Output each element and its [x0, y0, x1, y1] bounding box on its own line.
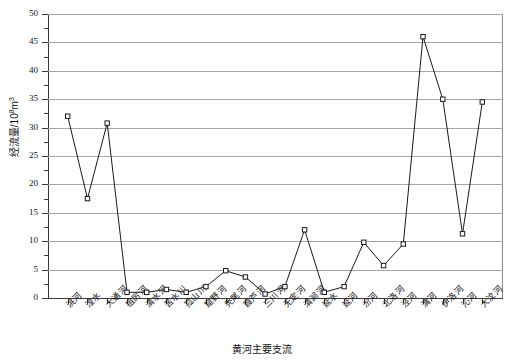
y-tick — [42, 156, 48, 157]
y-tick — [42, 42, 48, 43]
y-tick — [42, 270, 48, 271]
y-tick — [42, 241, 48, 242]
y-tick-minor — [44, 57, 48, 58]
y-tick-label: 50 — [0, 9, 38, 18]
y-tick — [42, 71, 48, 72]
gridline — [48, 156, 503, 157]
y-tick-label: 5 — [0, 265, 38, 274]
gridline — [48, 184, 503, 185]
runoff-line-chart: 05101520253035404550 洮河湟水大通河祖厉河清水河苦水川孤山川… — [0, 0, 523, 363]
x-axis-title: 黄河主要支流 — [0, 344, 523, 355]
y-axis-title: 经流量/108m3 — [6, 62, 20, 192]
y-tick-minor — [44, 142, 48, 143]
y-tick-minor — [44, 284, 48, 285]
y-tick — [42, 128, 48, 129]
y-tick — [42, 213, 48, 214]
y-tick-minor — [44, 85, 48, 86]
y-tick-label: 15 — [0, 208, 38, 217]
gridline — [48, 128, 503, 129]
y-tick — [42, 184, 48, 185]
y-tick-minor — [44, 28, 48, 29]
gridline — [48, 14, 503, 15]
y-tick-label: 0 — [0, 293, 38, 302]
y-tick-label: 10 — [0, 236, 38, 245]
gridline — [48, 241, 503, 242]
gridline — [48, 213, 503, 214]
y-tick — [42, 99, 48, 100]
y-tick-minor — [44, 113, 48, 114]
y-tick-minor — [44, 170, 48, 171]
y-tick-minor — [44, 227, 48, 228]
y-tick — [42, 14, 48, 15]
y-tick — [42, 298, 48, 299]
gridline — [48, 99, 503, 100]
gridline — [48, 42, 503, 43]
y-tick-minor — [44, 199, 48, 200]
y-tick-minor — [44, 255, 48, 256]
gridline — [48, 71, 503, 72]
y-tick-label: 45 — [0, 37, 38, 46]
gridline — [48, 270, 503, 271]
